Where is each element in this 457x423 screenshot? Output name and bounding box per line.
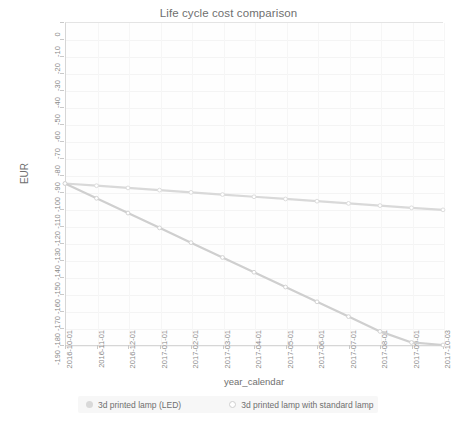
data-point-marker [410,341,414,345]
legend-swatch-icon [229,401,236,408]
y-tick-label-wrap: -170 [27,306,57,316]
data-point-marker [126,211,130,215]
data-point-marker [95,196,99,200]
data-point-marker [189,190,193,194]
data-point-marker [378,204,382,208]
data-point-marker [221,193,225,197]
data-point-marker [158,188,162,192]
y-tick-label-wrap: -110 [27,204,57,214]
legend-item-3d-printed-lamp-led[interactable]: 3d printed lamp (LED) [86,400,181,410]
data-point-marker [441,343,445,347]
chart-legend: 3d printed lamp (LED) 3d printed lamp wi… [78,396,378,413]
data-point-marker [63,182,67,186]
legend-item-label: 3d printed lamp (LED) [98,400,181,410]
legend-item-3d-printed-lamp-with-standard-lamp[interactable]: 3d printed lamp with standard lamp [229,400,373,410]
data-point-marker [315,199,319,203]
series-line [65,184,443,346]
y-tick-label-wrap: -40 [27,85,57,95]
y-tick-label-wrap: 0 [27,17,57,27]
y-tick-label-wrap: -190 [27,340,57,350]
y-tick-label-wrap: -60 [27,119,57,129]
x-tick-label: 2017-10-03 [443,330,452,370]
y-tick-label-wrap: -10 [27,34,57,44]
data-point-marker [252,195,256,199]
y-tick-label-wrap: -120 [27,221,57,231]
data-point-marker [347,315,351,319]
chart-title: Life cycle cost comparison [0,7,457,19]
data-point-marker [221,256,225,260]
y-tick-label-wrap: -150 [27,272,57,282]
chart-container: Life cycle cost comparison 0-10-20-30-40… [0,0,457,423]
data-point-marker [315,300,319,304]
data-point-marker [378,330,382,334]
x-axis-label: year_calendar [65,376,443,387]
data-point-marker [189,241,193,245]
y-tick-label-wrap: -30 [27,68,57,78]
y-tick-label-wrap: -90 [27,170,57,180]
y-tick-label-wrap: -180 [27,323,57,333]
y-tick-label-wrap: -20 [27,51,57,61]
y-tick-label-wrap: -80 [27,153,57,163]
legend-swatch-icon [86,401,93,408]
data-point-marker [158,226,162,230]
series-plot [65,22,443,345]
y-tick-label-wrap: -70 [27,136,57,146]
data-point-marker [284,285,288,289]
y-tick-label-wrap: -50 [27,102,57,112]
y-tick-label-wrap: -160 [27,289,57,299]
data-point-marker [347,201,351,205]
gridline [444,23,445,346]
data-point-marker [284,197,288,201]
data-point-marker [126,186,130,190]
data-point-marker [95,184,99,188]
data-point-marker [410,206,414,210]
y-tick-label-wrap: -130 [27,238,57,248]
y-tick-label-wrap: -140 [27,255,57,265]
y-tick-label-wrap: -100 [27,187,57,197]
y-axis-label: EUR [19,144,30,204]
data-point-marker [252,270,256,274]
data-point-marker [441,208,445,212]
legend-item-label: 3d printed lamp with standard lamp [241,400,373,410]
